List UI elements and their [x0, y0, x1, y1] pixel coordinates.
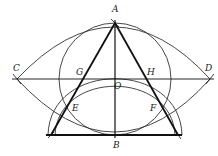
label-o: O	[114, 82, 121, 91]
arc-cad-upper	[17, 27, 210, 79]
label-e: E	[72, 104, 79, 113]
label-f: F	[150, 104, 156, 113]
geometry-diagram: A B C D E F G H O	[0, 0, 218, 156]
label-h: H	[147, 68, 155, 77]
label-c: C	[13, 64, 20, 73]
label-d: D	[205, 64, 212, 73]
label-g: G	[76, 68, 83, 77]
construction-figure	[0, 0, 218, 156]
label-a: A	[112, 5, 119, 14]
label-b: B	[113, 141, 120, 150]
